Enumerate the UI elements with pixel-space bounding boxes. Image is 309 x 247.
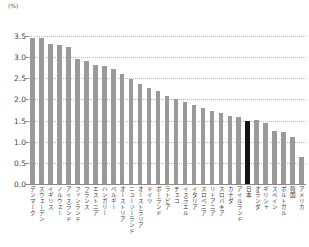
x-label-slot: スロバキア [216,186,225,246]
x-axis-tick-label: ラトビア [164,186,170,210]
bar [236,117,241,184]
x-axis-tick-label: カナダ [227,186,233,204]
bar-slot [270,36,279,184]
x-label-slot: ノルウェー [55,186,64,246]
x-label-slot: イタリア [189,186,198,246]
x-axis-tick-label: エストニア [92,186,98,216]
x-axis-tick-label: アイスランド [66,186,72,222]
x-axis-tick-label: アイルランド [236,186,242,222]
plot-area [28,36,306,184]
x-label-slot: リトアニア [207,186,216,246]
x-axis-tick-label: スウェーデン [39,186,45,222]
bar [254,120,259,184]
y-axis-tick-label: 0.5 [0,159,26,168]
x-axis-tick-label: ギリシャ [263,186,269,210]
bar [156,91,161,184]
x-axis-tick-label: フランス [84,186,90,210]
x-label-slot: ドイツ [145,186,154,246]
bar [30,38,35,184]
x-label-slot: カナダ [225,186,234,246]
x-label-slot: オランダ [252,186,261,246]
bar-slot [136,36,145,184]
y-axis-unit-label: (%) [8,2,18,9]
bar-slot [234,36,243,184]
bar [183,102,188,184]
x-label-slot: ポーランド [154,186,163,246]
bar-slot [28,36,37,184]
bar [245,121,250,184]
bar [138,84,143,184]
bar-slot [207,36,216,184]
bar-chart: (%) 0.00.51.01.52.02.53.03.5 デンマークスウェーデン… [0,0,309,247]
x-axis-tick-label: スペイン [272,186,278,210]
x-axis-tick-label: イタリア [191,186,197,210]
x-axis-tick-label: チェコ [173,186,179,204]
x-axis-tick-label: イギリス [48,186,54,210]
bar [281,132,286,184]
x-axis-tick-label: ドイツ [146,186,152,204]
bar-slot [198,36,207,184]
x-axis-tick-label: スロバキア [218,186,224,216]
x-axis-tick-label: ポーランド [155,186,161,216]
bar-slot [118,36,127,184]
x-axis-tick-label: ノルウェー [57,186,63,216]
bar-slot [109,36,118,184]
y-axis-tick-label: 0.0 [0,180,26,189]
bar [66,47,71,184]
bar [93,65,98,184]
x-label-slot: ベルギー [109,186,118,246]
x-label-slot: スロベニア [198,186,207,246]
bar [39,38,44,184]
x-label-slot: スペイン [270,186,279,246]
bar [129,79,134,184]
bar [263,123,268,184]
bar [210,111,215,184]
bar-slot [261,36,270,184]
bar-slot [91,36,100,184]
x-axis-tick-label: フィンランド [75,186,81,222]
bar [174,99,179,184]
bar [219,113,224,184]
x-label-slot: フィンランド [73,186,82,246]
gridline [28,184,306,185]
x-label-slot: スウェーデン [37,186,46,246]
bar-slot [154,36,163,184]
y-axis-tick-label: 3.0 [0,53,26,62]
y-axis-tick-label: 2.5 [0,74,26,83]
x-label-slot: イスラエル [180,186,189,246]
x-label-slot: イギリス [46,186,55,246]
x-label-slot: 日本 [243,186,252,246]
x-label-slot: アイスランド [64,186,73,246]
x-label-slot: アメリカ [297,186,306,246]
x-label-slot: チェコ [172,186,181,246]
bar [102,66,107,184]
y-axis-tick-label: 1.5 [0,117,26,126]
bar [299,157,304,184]
x-label-slot: オーストリア [118,186,127,246]
y-axis-tick-label: 3.5 [0,32,26,41]
x-label-slot: アイルランド [234,186,243,246]
bar [192,105,197,184]
bar-slot [216,36,225,184]
bar-slot [64,36,73,184]
x-label-slot: オーストラリア [136,186,145,246]
bar-slot [55,36,64,184]
bar [272,131,277,184]
x-axis-tick-label: デンマーク [30,186,36,216]
x-axis-tick-label: イスラエル [182,186,188,216]
x-axis-tick-label: アメリカ [299,186,305,210]
bar-slot [252,36,261,184]
x-axis-tick-label: ニュージーランド [128,186,134,234]
y-axis-tick-label: 2.0 [0,95,26,104]
bar-series [28,36,306,184]
bar-slot [225,36,234,184]
bar-slot [73,36,82,184]
x-label-slot: フランス [82,186,91,246]
x-label-slot: ポルトガル [279,186,288,246]
bar-slot [145,36,154,184]
x-axis-labels: デンマークスウェーデンイギリスノルウェーアイスランドフィンランドフランスエストニ… [28,186,306,246]
y-axis-tick-label: 1.0 [0,138,26,147]
bar [228,116,233,185]
bar [75,59,80,184]
x-axis-tick-label: オーストリア [119,186,125,222]
